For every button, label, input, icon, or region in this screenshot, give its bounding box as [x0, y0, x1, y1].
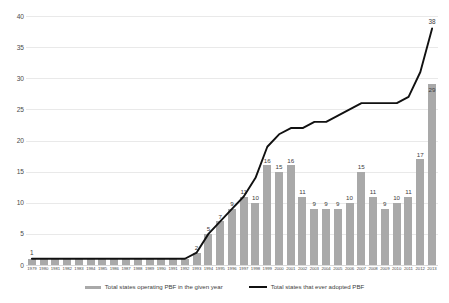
y-axis-tick-35: 35	[2, 44, 24, 51]
bar-slot-2002: 11	[297, 16, 309, 265]
bar-2012[interactable]: 17	[416, 159, 424, 265]
bar-1982[interactable]	[63, 259, 71, 265]
bar-series: 2579111016151611999101511910111729	[26, 16, 438, 265]
legend-label-line: Total states that ever adopted PBF	[271, 283, 365, 291]
bar-slot-1990	[155, 16, 167, 265]
x-axis-tick-1982: 1982	[61, 266, 73, 278]
bar-value-label-2003: 9	[313, 200, 316, 207]
bar-slot-2003: 9	[308, 16, 320, 265]
x-axis-tick-2004: 2004	[320, 266, 332, 278]
bar-slot-1981	[50, 16, 62, 265]
bar-slot-1979	[26, 16, 38, 265]
bar-1996[interactable]: 9	[228, 209, 236, 265]
bar-2005[interactable]: 9	[334, 209, 342, 265]
bar-slot-2004: 9	[320, 16, 332, 265]
bar-1984[interactable]	[87, 259, 95, 265]
bar-slot-1994: 5	[202, 16, 214, 265]
bar-2004[interactable]: 9	[322, 209, 330, 265]
line-swatch-icon	[249, 286, 267, 288]
bar-1981[interactable]	[51, 259, 59, 265]
x-axis-tick-1992: 1992	[179, 266, 191, 278]
bar-1985[interactable]	[98, 259, 106, 265]
bar-value-label-1999: 16	[264, 157, 271, 164]
bar-value-label-1998: 10	[252, 194, 259, 201]
bar-1990[interactable]	[157, 259, 165, 265]
bar-slot-2010: 10	[391, 16, 403, 265]
x-axis-tick-2010: 2010	[391, 266, 403, 278]
bar-value-label-2012: 17	[417, 151, 424, 158]
bar-1986[interactable]	[110, 259, 118, 265]
bar-2010[interactable]: 10	[393, 203, 401, 265]
bar-slot-2001: 16	[285, 16, 297, 265]
bar-1983[interactable]	[75, 259, 83, 265]
bar-slot-1999: 16	[261, 16, 273, 265]
bar-slot-1995: 7	[214, 16, 226, 265]
bar-2007[interactable]: 15	[357, 172, 365, 265]
bar-1993[interactable]: 2	[193, 253, 201, 265]
y-axis-tick-10: 10	[2, 199, 24, 206]
bar-slot-1991	[167, 16, 179, 265]
y-axis-tick-20: 20	[2, 137, 24, 144]
x-axis-tick-1980: 1980	[38, 266, 50, 278]
bar-slot-2007: 15	[355, 16, 367, 265]
x-axis-tick-2005: 2005	[332, 266, 344, 278]
bar-slot-2000: 15	[273, 16, 285, 265]
bar-2006[interactable]: 10	[346, 203, 354, 265]
bar-1997[interactable]: 11	[240, 197, 248, 265]
x-axis-tick-1987: 1987	[120, 266, 132, 278]
bar-1991[interactable]	[169, 259, 177, 265]
bar-slot-1996: 9	[226, 16, 238, 265]
bar-1998[interactable]: 10	[251, 203, 259, 265]
bar-slot-1993: 2	[191, 16, 203, 265]
x-axis-tick-1996: 1996	[226, 266, 238, 278]
x-axis-tick-2000: 2000	[273, 266, 285, 278]
bar-slot-1988	[132, 16, 144, 265]
x-axis-tick-1985: 1985	[97, 266, 109, 278]
bar-1995[interactable]: 7	[216, 221, 224, 265]
bar-2001[interactable]: 16	[287, 165, 295, 265]
bar-value-label-2000: 15	[276, 163, 283, 170]
bar-swatch-icon	[85, 286, 101, 289]
bar-1994[interactable]: 5	[204, 234, 212, 265]
bar-value-label-1994: 5	[207, 225, 210, 232]
bar-value-label-2009: 9	[383, 200, 386, 207]
x-axis-tick-1979: 1979	[26, 266, 38, 278]
bar-value-label-2010: 10	[393, 194, 400, 201]
bar-1989[interactable]	[146, 259, 154, 265]
bar-slot-2008: 11	[367, 16, 379, 265]
bar-slot-1987	[120, 16, 132, 265]
bar-slot-2012: 17	[414, 16, 426, 265]
bar-2009[interactable]: 9	[381, 209, 389, 265]
bar-value-label-2001: 16	[287, 157, 294, 164]
bar-1992[interactable]	[181, 259, 189, 265]
bar-2000[interactable]: 15	[275, 172, 283, 265]
bar-slot-2013: 29	[426, 16, 438, 265]
bar-2002[interactable]: 11	[298, 197, 306, 265]
bar-slot-2006: 10	[344, 16, 356, 265]
bar-slot-2011: 11	[403, 16, 415, 265]
legend-item-bars[interactable]: Total states operating PBF in the given …	[85, 283, 223, 291]
bar-2003[interactable]: 9	[310, 209, 318, 265]
bar-1987[interactable]	[122, 259, 130, 265]
bar-1979[interactable]	[28, 259, 36, 265]
bar-slot-1980	[38, 16, 50, 265]
legend-item-line[interactable]: Total states that ever adopted PBF	[249, 283, 365, 291]
bar-2008[interactable]: 11	[369, 197, 377, 265]
bar-value-label-2004: 9	[324, 200, 327, 207]
plot-area: 2579111016151611999101511910111729 138	[26, 16, 438, 265]
bar-slot-2009: 9	[379, 16, 391, 265]
bar-1988[interactable]	[134, 259, 142, 265]
bar-2013[interactable]: 29	[428, 84, 436, 265]
bar-slot-1985	[97, 16, 109, 265]
chart-legend: Total states operating PBF in the given …	[0, 281, 449, 293]
x-axis-tick-1983: 1983	[73, 266, 85, 278]
x-axis-tick-2003: 2003	[308, 266, 320, 278]
bar-1980[interactable]	[40, 259, 48, 265]
bar-1999[interactable]: 16	[263, 165, 271, 265]
bar-2011[interactable]: 11	[404, 197, 412, 265]
bar-value-label-2013: 29	[428, 86, 435, 93]
x-axis-tick-1993: 1993	[191, 266, 203, 278]
x-axis-tick-1981: 1981	[50, 266, 62, 278]
bar-value-label-2006: 10	[346, 194, 353, 201]
x-axis-tick-2013: 2013	[426, 266, 438, 278]
